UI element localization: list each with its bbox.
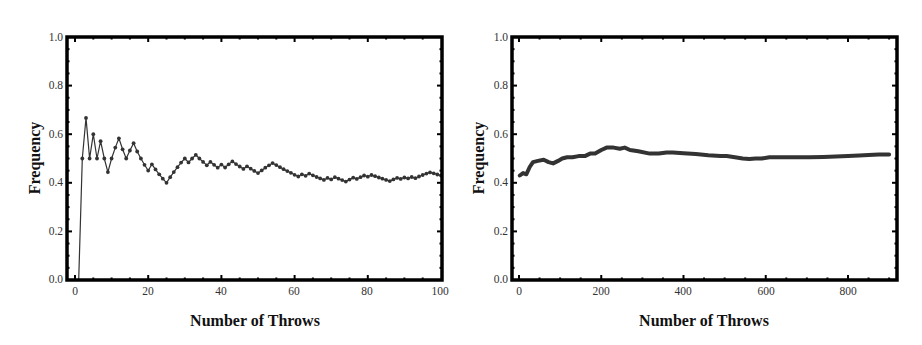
data-point bbox=[80, 157, 84, 161]
data-point bbox=[351, 176, 355, 180]
data-point bbox=[231, 160, 235, 164]
y-tick-label: 0.2 bbox=[494, 225, 509, 237]
x-tick-label: 0 bbox=[516, 285, 522, 297]
data-point bbox=[359, 175, 363, 179]
left-chart-panel: 0.0 0.2 0.4 0.6 0.8 1.0 0 20 40 60 80 10… bbox=[26, 31, 449, 329]
y-tick-label: 0.4 bbox=[49, 176, 64, 188]
data-point bbox=[252, 169, 256, 173]
y-tick-label: 1.0 bbox=[49, 31, 64, 43]
left-data-series bbox=[79, 116, 443, 280]
data-point bbox=[113, 146, 117, 150]
series-line bbox=[520, 148, 889, 176]
data-point bbox=[154, 168, 158, 172]
left-x-axis-title: Number of Throws bbox=[190, 312, 320, 329]
data-point bbox=[124, 157, 128, 161]
y-tick-label: 0.2 bbox=[49, 225, 64, 237]
data-point bbox=[227, 162, 231, 166]
data-point bbox=[326, 176, 330, 180]
data-point bbox=[161, 177, 165, 181]
y-tick-label: 0.4 bbox=[494, 176, 509, 188]
data-point bbox=[370, 173, 374, 177]
data-point bbox=[432, 171, 436, 175]
data-point bbox=[135, 150, 139, 154]
data-point bbox=[146, 169, 150, 173]
x-tick-label: 200 bbox=[592, 285, 610, 297]
data-point bbox=[428, 171, 432, 175]
data-point bbox=[381, 177, 385, 181]
data-point bbox=[198, 157, 202, 161]
data-point bbox=[366, 175, 370, 179]
data-point bbox=[139, 157, 143, 161]
y-tick-label: 0.0 bbox=[49, 273, 64, 285]
y-tick-label: 0.6 bbox=[494, 128, 509, 140]
data-point bbox=[322, 178, 326, 182]
data-point bbox=[333, 175, 337, 179]
x-tick-label: 100 bbox=[431, 285, 449, 297]
x-tick-label: 80 bbox=[361, 285, 373, 297]
data-point bbox=[318, 177, 322, 181]
data-point bbox=[234, 162, 238, 166]
data-point bbox=[176, 165, 180, 169]
data-point bbox=[172, 170, 176, 174]
data-point bbox=[377, 176, 381, 180]
data-point bbox=[417, 175, 421, 179]
data-point bbox=[187, 161, 191, 165]
data-point bbox=[99, 139, 103, 143]
x-tick-label: 400 bbox=[674, 285, 692, 297]
figure-svg: 0.0 0.2 0.4 0.6 0.8 1.0 0 20 40 60 80 10… bbox=[0, 0, 922, 345]
data-point bbox=[300, 172, 304, 176]
data-point bbox=[194, 153, 198, 157]
data-point bbox=[263, 166, 267, 170]
data-point bbox=[183, 157, 187, 161]
data-point bbox=[267, 163, 271, 167]
right-y-axis-title: Frequency bbox=[470, 122, 488, 195]
x-tick-label: 600 bbox=[757, 285, 775, 297]
data-point bbox=[121, 147, 125, 151]
data-point bbox=[201, 160, 205, 164]
y-tick-label: 0.8 bbox=[494, 79, 509, 91]
left-ticks bbox=[67, 37, 442, 280]
data-point bbox=[293, 173, 297, 177]
data-point bbox=[157, 172, 161, 176]
data-point bbox=[274, 163, 278, 167]
data-point bbox=[216, 166, 220, 170]
y-tick-label: 0.8 bbox=[49, 79, 64, 91]
data-point bbox=[304, 174, 308, 178]
data-point bbox=[315, 175, 319, 179]
data-point bbox=[245, 164, 249, 168]
data-point bbox=[421, 173, 425, 177]
data-point bbox=[212, 163, 216, 167]
right-chart-panel: 0.0 0.2 0.4 0.6 0.8 1.0 0 200 400 600 80… bbox=[470, 31, 897, 329]
data-point bbox=[179, 161, 183, 165]
figure: 0.0 0.2 0.4 0.6 0.8 1.0 0 20 40 60 80 10… bbox=[0, 0, 922, 345]
data-point bbox=[362, 174, 366, 178]
left-y-axis-title: Frequency bbox=[26, 122, 44, 195]
right-data-series bbox=[520, 148, 889, 176]
data-point bbox=[285, 169, 289, 173]
x-tick-label: 0 bbox=[72, 285, 78, 297]
x-tick-label: 40 bbox=[215, 285, 227, 297]
data-point bbox=[95, 157, 99, 161]
data-point bbox=[388, 179, 392, 183]
right-y-tick-labels: 0.0 0.2 0.4 0.6 0.8 1.0 bbox=[494, 31, 509, 285]
data-point bbox=[355, 177, 359, 181]
data-point bbox=[238, 165, 242, 169]
data-point bbox=[256, 171, 260, 175]
data-point bbox=[84, 116, 88, 120]
data-point bbox=[205, 163, 209, 167]
left-y-tick-labels: 0.0 0.2 0.4 0.6 0.8 1.0 bbox=[49, 31, 64, 285]
data-point bbox=[307, 172, 311, 176]
data-point bbox=[278, 165, 282, 169]
x-tick-label: 800 bbox=[839, 285, 857, 297]
x-tick-label: 60 bbox=[288, 285, 300, 297]
data-point bbox=[106, 170, 110, 174]
data-point bbox=[337, 177, 341, 181]
data-point bbox=[395, 176, 399, 180]
data-point bbox=[403, 176, 407, 180]
data-point bbox=[289, 171, 293, 175]
data-point bbox=[329, 178, 333, 182]
data-point bbox=[282, 167, 286, 171]
data-point bbox=[209, 160, 213, 164]
data-point bbox=[220, 163, 224, 167]
data-point bbox=[384, 178, 388, 182]
